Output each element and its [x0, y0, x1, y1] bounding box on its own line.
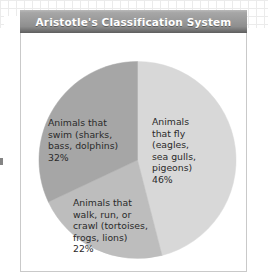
figure-container: Aristotle's Classification System Animal…: [20, 10, 247, 272]
chart-frame: Animals that fly (eagles, sea gulls, pig…: [20, 33, 247, 272]
pie-slice-label-fly: Animals that fly (eagles, sea gulls, pig…: [152, 116, 214, 186]
figure-title: Aristotle's Classification System: [36, 16, 232, 28]
pie-slice-label-walk: Animals that walk, run, or crawl (tortoi…: [73, 197, 157, 255]
figure-title-bar: Aristotle's Classification System: [20, 10, 247, 33]
page-edge-artifact: [0, 158, 3, 165]
pie-slice-label-swim: Animals that swim (sharks, bass, dolphin…: [48, 117, 131, 163]
